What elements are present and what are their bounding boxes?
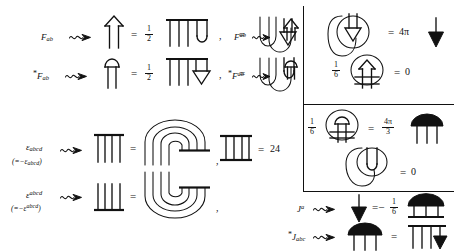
fraction-denominator: 6	[390, 207, 398, 216]
panel-vertical-divider	[303, 6, 304, 192]
value-zero-rowD: 0	[411, 166, 416, 177]
fraction-denominator: 3	[382, 127, 394, 136]
fraction-one-sixth-J1: 1 6	[390, 197, 398, 216]
fraction-one-sixth-rowB: 1 6	[332, 60, 340, 79]
label-epsilon-upper-antisym: (=−εabcd)	[11, 203, 41, 213]
value-24: 24	[270, 143, 280, 154]
panel-horizontal-divider-2	[303, 191, 454, 192]
value-4pi: 4π	[399, 26, 409, 37]
label-J-upper-sup: a	[301, 203, 304, 210]
fraction-denominator: 6	[332, 70, 340, 79]
diagram-ubend-with-cup	[256, 55, 302, 93]
diagram-four-legs-top-bar	[92, 131, 126, 165]
diagram-up-arrow-two-legs	[101, 12, 127, 50]
comma-eps2: ,	[216, 202, 219, 213]
diagram-ubend-with-up-arrow	[256, 14, 302, 54]
diagram-solid-cap-three-legs-J2	[345, 222, 385, 252]
diagram-cap-two-legs	[100, 54, 124, 90]
label-F-dual-ab: *Fab	[33, 70, 49, 82]
down-solid-arrow-icon-J1	[350, 194, 368, 224]
squiggly-arrow-icon-eps2	[60, 191, 86, 203]
fraction-numerator: 4π	[382, 118, 394, 126]
equals-rowA: =	[388, 26, 394, 38]
fraction-one-sixth-rowC: 1 6	[308, 117, 316, 136]
fraction-numerator: 1	[145, 64, 153, 72]
fraction-one-half-row2: 1 2	[145, 63, 153, 82]
equals-ubend1: =	[239, 28, 245, 40]
fraction-one-half-row1: 1 2	[145, 24, 153, 43]
figure-canvas: Fab = 1 2	[0, 0, 454, 252]
antisym-upper-open: (=−ε	[11, 204, 27, 213]
diagram-loop-around-cup	[338, 142, 398, 190]
equals-ubend2: =	[239, 67, 245, 79]
equals-minus-J1: =−	[372, 201, 384, 213]
equals-rowD: =	[400, 166, 406, 178]
fraction-four-pi-over-three: 4π 3	[382, 117, 394, 136]
antisym-upper-close: )	[38, 204, 41, 213]
diagram-nested-hook-eps-lower	[142, 118, 214, 166]
squiggly-arrow-icon-row1	[69, 31, 95, 43]
equals-rowB: =	[394, 66, 400, 78]
label-epsilon-upper-sup: abcd	[30, 189, 43, 196]
diagram-solid-cap-three-legs-rowC	[408, 112, 446, 146]
antisym-sub: abcd	[28, 160, 40, 166]
equals-contraction: =	[258, 143, 264, 155]
label-epsilon-sub: abcd	[30, 145, 43, 152]
diagram-solid-cap-box-legs	[404, 194, 448, 222]
value-zero-rowB: 0	[405, 66, 410, 77]
diagram-four-rungs-double-bar	[218, 132, 254, 166]
label-F-ab: Fab	[41, 31, 53, 43]
squiggly-arrow-icon-eps1	[60, 144, 86, 156]
equals-eps1: =	[130, 142, 136, 154]
label-J-upper-a: Ja	[297, 203, 304, 214]
equals-J2: =	[391, 230, 397, 242]
diagram-four-legs-bottom-bar	[92, 182, 126, 216]
fraction-denominator: 6	[308, 127, 316, 136]
fraction-numerator: 1	[390, 198, 398, 206]
equals-row2: =	[131, 67, 137, 79]
diagram-nested-hook-eps-upper	[142, 168, 214, 220]
fraction-denominator: 2	[145, 73, 153, 82]
equals-eps2: =	[130, 190, 136, 202]
comma-row2: ,	[219, 69, 222, 80]
label-F-ab-sub: ab	[47, 35, 54, 42]
diagram-loop-around-up-hook	[345, 50, 389, 96]
label-epsilon-upper-abcd: εabcd	[26, 190, 42, 200]
diagram-three-legs-with-down-triangle	[164, 55, 212, 89]
label-epsilon-antisym: (=−εabcd)	[12, 157, 42, 166]
diagram-three-legs-with-cup	[164, 16, 212, 50]
antisym-close: )	[39, 157, 42, 166]
fraction-numerator: 1	[332, 61, 340, 69]
squiggly-arrow-icon-J2	[313, 231, 339, 243]
antisym-upper-sup: abcd	[27, 203, 39, 209]
fraction-numerator: 1	[145, 25, 153, 33]
label-F-dual-sub: ab	[43, 74, 50, 81]
panel-horizontal-divider-1	[303, 104, 454, 105]
down-solid-arrow-icon-rowA	[427, 17, 445, 49]
label-epsilon-abcd: εabcd	[26, 143, 42, 153]
fraction-denominator: 2	[145, 34, 153, 43]
equals-row1: =	[131, 28, 137, 40]
comma-row1: ,	[219, 30, 222, 41]
antisym-open: (=−ε	[12, 157, 28, 166]
equals-rowC: =	[368, 122, 374, 134]
squiggly-arrow-icon-J1	[313, 203, 339, 215]
fraction-numerator: 1	[308, 118, 316, 126]
label-J-dual-abc: *Jabc	[288, 231, 305, 243]
label-J-dual-sub: abc	[296, 235, 305, 242]
squiggly-arrow-icon-row2	[65, 70, 91, 82]
diagram-three-legs-bar-down-arrow	[406, 222, 450, 252]
